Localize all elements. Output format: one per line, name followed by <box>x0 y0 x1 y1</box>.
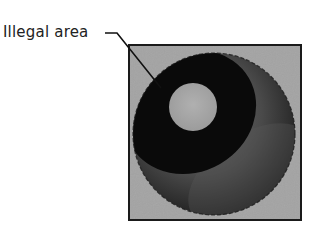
highlight-spot <box>169 83 217 131</box>
sphere-diagram <box>0 0 316 232</box>
